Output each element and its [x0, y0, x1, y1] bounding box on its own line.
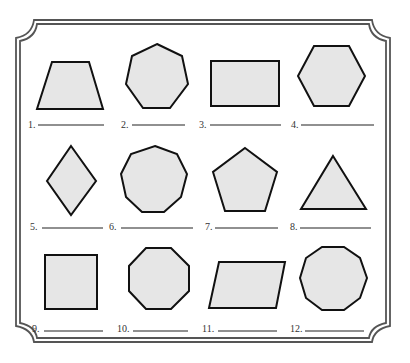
- pentagon-shape: [213, 148, 277, 211]
- item-number: 10.: [117, 323, 130, 334]
- parallelogram-shape: [209, 262, 285, 308]
- trapezoid-shape: [37, 62, 103, 109]
- rhombus-shape: [47, 146, 96, 215]
- item-number: 5.: [30, 221, 38, 232]
- item-number: 6.: [109, 221, 117, 232]
- decagon-shape: [300, 247, 367, 310]
- item-number: 3.: [199, 119, 207, 130]
- hexagon-shape: [298, 46, 365, 106]
- shapes-worksheet: 1. 2. 3. 4. 5. 6. 7. 8. 9.: [0, 0, 410, 363]
- worksheet-item-1: 1.: [28, 62, 104, 130]
- item-number: 11.: [202, 323, 214, 334]
- worksheet-item-11: 11.: [202, 262, 285, 334]
- worksheet-item-7: 7.: [205, 148, 278, 232]
- worksheet-item-4: 4.: [291, 46, 374, 130]
- worksheet-item-12: 12.: [290, 247, 367, 334]
- worksheet-item-10: 10.: [117, 248, 189, 334]
- triangle-shape: [301, 156, 366, 209]
- nonagon-shape: [121, 146, 187, 212]
- octagon-shape: [129, 248, 189, 309]
- worksheet-item-5: 5.: [30, 146, 103, 232]
- item-number: 9.: [32, 323, 40, 334]
- worksheet-item-6: 6.: [109, 146, 193, 232]
- worksheet-item-9: 9.: [32, 255, 103, 334]
- item-number: 12.: [290, 323, 303, 334]
- worksheet-item-2: 2.: [121, 44, 188, 130]
- item-number: 2.: [121, 119, 129, 130]
- worksheet-item-3: 3.: [199, 61, 281, 130]
- item-number: 4.: [291, 119, 299, 130]
- item-number: 1.: [28, 119, 36, 130]
- heptagon-shape: [126, 44, 188, 108]
- item-number: 8.: [290, 221, 298, 232]
- square-shape: [45, 255, 97, 309]
- rectangle-shape: [211, 61, 279, 106]
- item-number: 7.: [205, 221, 213, 232]
- worksheet-item-8: 8.: [290, 156, 371, 232]
